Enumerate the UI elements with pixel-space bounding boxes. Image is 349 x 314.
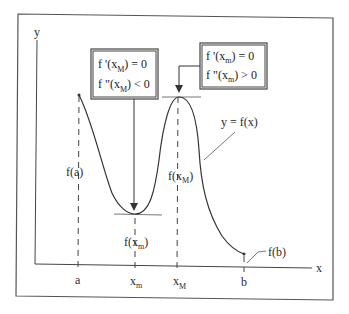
label-fa: f(a) <box>66 165 83 179</box>
axes: y x <box>34 25 322 275</box>
tick-b: b <box>241 275 247 289</box>
tick-a: a <box>75 273 81 287</box>
fb-pointer <box>247 251 266 263</box>
function-curve <box>79 95 244 254</box>
y-axis <box>35 40 37 264</box>
label-curve: y = f(x) <box>221 115 258 129</box>
dashed-guides <box>78 96 244 272</box>
arrowhead-left <box>130 203 138 211</box>
arrowhead-right <box>175 85 183 93</box>
curve-pointer <box>204 132 235 160</box>
x-axis-label: x <box>316 261 322 275</box>
tick-xM: xM <box>173 274 186 291</box>
endpoint-b <box>243 253 246 256</box>
tick-xm: xm <box>130 274 143 290</box>
label-fb: f(b) <box>268 245 286 259</box>
guide-a <box>78 96 79 270</box>
min-condition-box: f '(xm) = 0 f "(xm) > 0 <box>200 43 267 89</box>
max-condition-box: f '(xM) = 0 f "(xM) < 0 <box>91 49 158 99</box>
label-fxm: f(xm) <box>124 235 148 251</box>
label-fxM: f(xM) <box>168 169 193 185</box>
x-axis <box>35 264 312 268</box>
endpoint-a <box>78 94 81 97</box>
extrema-diagram: y x f '(xM) = 0 f "(xM) < 0 f '(xm) = 0 <box>0 0 349 314</box>
guide-xM <box>177 97 178 272</box>
y-axis-label: y <box>34 25 40 39</box>
arrow-right-box <box>179 66 200 88</box>
